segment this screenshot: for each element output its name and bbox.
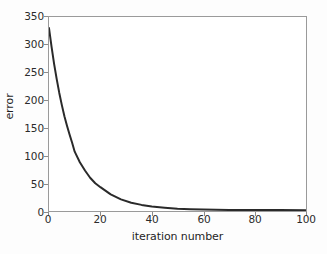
x-tick-label: 60 (197, 214, 210, 225)
y-tick-label: 100 (24, 151, 44, 162)
x-tick-label: 0 (45, 214, 52, 225)
figure-canvas: 350 300 250 200 150 100 50 0 0 20 40 60 … (0, 0, 327, 254)
y-tick-label: 300 (24, 39, 44, 50)
plot-area (48, 16, 307, 212)
y-tick-label: 50 (31, 179, 44, 190)
error-curve (49, 28, 306, 210)
x-tick-label: 20 (93, 214, 106, 225)
y-tick-label: 350 (24, 11, 44, 22)
y-tick-label: 200 (24, 95, 44, 106)
x-tick-label: 80 (248, 214, 261, 225)
y-tick-label: 150 (24, 123, 44, 134)
x-tick-label: 100 (296, 214, 316, 225)
error-curve-svg (49, 17, 306, 211)
y-tick-label: 0 (37, 207, 44, 218)
y-axis-label: error (3, 77, 16, 137)
x-axis-label: iteration number (48, 230, 307, 243)
x-tick-label: 40 (145, 214, 158, 225)
y-tick-label: 250 (24, 67, 44, 78)
